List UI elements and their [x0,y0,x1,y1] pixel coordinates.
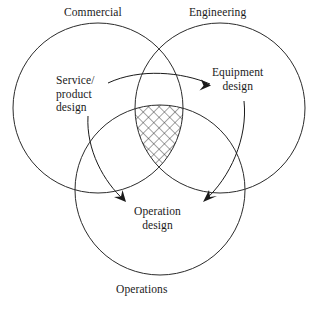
triple-intersection-hatch [0,0,320,309]
venn-diagram-canvas [0,0,320,309]
venn-diagram-figure: Commercial Engineering Operations Servic… [0,0,320,309]
label-operation-design-line-2: design [134,219,181,233]
label-commercial: Commercial [64,6,122,20]
arrow-equipment-to-operation-design [203,101,245,202]
arrow-service-to-operation-design [88,116,126,202]
label-equipment-design-line-2: design [212,80,263,94]
label-equipment-design: Equipment design [212,66,263,93]
arrow-to-equipment-design [108,73,211,90]
label-operations: Operations [116,283,167,297]
label-service-product-design-line-3: design [56,101,94,115]
label-operation-design: Operation design [134,205,181,232]
label-service-product-design-line-1: Service/ [56,74,94,88]
label-operation-design-line-1: Operation [134,205,181,219]
label-engineering: Engineering [189,6,246,20]
label-service-product-design: Service/ product design [56,74,94,115]
label-equipment-design-line-1: Equipment [212,66,263,80]
label-service-product-design-line-2: product [56,88,94,102]
